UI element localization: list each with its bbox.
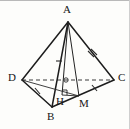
vertex-label-M: M: [79, 98, 89, 109]
vertex-label-A: A: [63, 4, 71, 15]
vertex-label-H: H: [56, 96, 64, 107]
vertex-label-C: C: [118, 72, 125, 83]
vertex-label-D: D: [8, 72, 16, 83]
geometry-figure: A B C D H M: [0, 0, 130, 129]
vertex-label-B: B: [47, 111, 54, 122]
geometry-svg: [0, 0, 130, 129]
segment-AH: [62, 22, 68, 95]
edge-AD: [22, 22, 68, 80]
